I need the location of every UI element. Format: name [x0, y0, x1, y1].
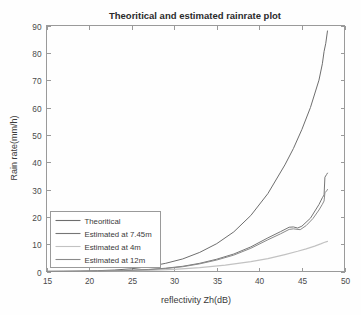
- y-tick-label: 60: [32, 104, 42, 114]
- x-tick-label: 25: [128, 276, 138, 286]
- y-tick-label: 0: [37, 268, 42, 278]
- x-tick-label: 35: [213, 276, 223, 286]
- y-tick-label: 50: [32, 131, 42, 141]
- legend-label-1[interactable]: Estimated at 7.45m: [85, 230, 152, 239]
- x-tick-label: 45: [298, 276, 308, 286]
- chart-legend[interactable]: TheoriticalEstimated at 7.45mEstimated a…: [51, 212, 161, 268]
- rainrate-line-chart: Theoritical and estimated rainrate plot …: [0, 0, 361, 315]
- y-tick-label: 30: [32, 186, 42, 196]
- legend-label-2[interactable]: Estimated at 4m: [85, 243, 141, 252]
- chart-title: Theoritical and estimated rainrate plot: [109, 10, 282, 21]
- y-tick-label: 20: [32, 213, 42, 223]
- legend-label-0[interactable]: Theoritical: [85, 217, 121, 226]
- x-tick-label: 40: [255, 276, 265, 286]
- legend-label-3[interactable]: Estimated at 12m: [85, 256, 146, 265]
- x-tick-label: 30: [170, 276, 180, 286]
- y-tick-label: 90: [32, 22, 42, 32]
- x-tick-label: 15: [43, 276, 53, 286]
- y-tick-label: 80: [32, 49, 42, 59]
- x-tick-label: 20: [85, 276, 95, 286]
- y-axis-label: Rain rate(mm/h): [9, 115, 19, 180]
- y-tick-label: 40: [32, 158, 42, 168]
- y-tick-label: 70: [32, 76, 42, 86]
- figure-container: Theoritical and estimated rainrate plot …: [0, 0, 361, 315]
- x-tick-label: 50: [341, 276, 351, 286]
- y-tick-label: 10: [32, 240, 42, 250]
- x-axis-label: reflectivity Zh(dB): [161, 295, 231, 305]
